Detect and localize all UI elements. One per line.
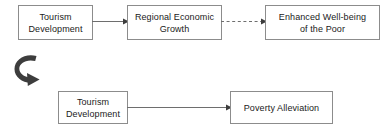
connector-tourism-to-regional-growth [92,15,129,28]
node-enhanced-wellbeing-of-the-poor: Enhanced Well-being of the Poor [265,5,380,40]
node-poverty-alleviation: Poverty Alleviation [230,91,333,124]
curved-rotation-arrow-icon [12,52,44,90]
node-tourism-development-top: Tourism Development [18,5,93,40]
solid-arrow-icon [127,101,232,114]
node-label: Tourism Development [22,11,89,35]
solid-arrow-icon [92,15,129,28]
node-tourism-development-bottom: Tourism Development [58,91,128,124]
connector-tourism-to-poverty-alleviation [127,101,232,114]
node-regional-economic-growth: Regional Economic Growth [127,5,222,40]
node-label: Poverty Alleviation [234,102,329,114]
node-label: Tourism Development [62,96,124,120]
diagram-canvas: Tourism Development Regional Economic Gr… [0,0,389,131]
node-label: Enhanced Well-being of the Poor [269,11,376,35]
node-label: Regional Economic Growth [131,11,218,35]
connector-regional-growth-to-wellbeing [221,15,267,28]
dashed-arrow-icon [221,15,267,28]
curved-rotation-arrow-glyph [12,52,44,90]
